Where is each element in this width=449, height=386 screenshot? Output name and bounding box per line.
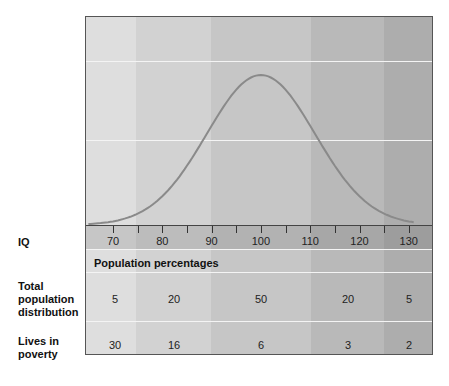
tick-mark bbox=[138, 226, 139, 233]
row-label-line: population bbox=[18, 293, 79, 306]
cell-total-3: 50 bbox=[255, 293, 267, 305]
chart-frame: 708090100110120130 Population percentage… bbox=[85, 16, 433, 355]
cell-poverty-5: 2 bbox=[406, 339, 412, 351]
row-label-poverty: Lives in poverty bbox=[18, 335, 59, 361]
tick-mark bbox=[212, 226, 213, 233]
cell-total-2: 20 bbox=[168, 293, 180, 305]
row-label-line: Total bbox=[18, 280, 79, 293]
row-label-line: poverty bbox=[18, 348, 59, 361]
iq-axis: 708090100110120130 bbox=[86, 225, 432, 250]
tick-label: 100 bbox=[252, 235, 270, 247]
tick-mark bbox=[113, 226, 114, 233]
cell-total-5: 5 bbox=[406, 293, 412, 305]
tick-label: 70 bbox=[107, 235, 119, 247]
tick-mark bbox=[187, 226, 188, 233]
cell-poverty-2: 16 bbox=[168, 339, 180, 351]
tick-mark bbox=[286, 226, 287, 233]
tick-label: 90 bbox=[205, 235, 217, 247]
cell-poverty-1: 30 bbox=[109, 339, 121, 351]
tick-mark bbox=[335, 226, 336, 233]
tick-label: 80 bbox=[156, 235, 168, 247]
divider bbox=[86, 272, 432, 273]
row-label-total-population: Total population distribution bbox=[18, 280, 79, 319]
divider bbox=[86, 249, 432, 250]
tick-label: 110 bbox=[301, 235, 319, 247]
row-label-line: Lives in bbox=[18, 335, 59, 348]
cell-poverty-4: 3 bbox=[345, 339, 351, 351]
tick-label: 130 bbox=[400, 235, 418, 247]
cell-total-4: 20 bbox=[342, 293, 354, 305]
tick-mark bbox=[409, 226, 410, 233]
tick-mark bbox=[360, 226, 361, 233]
tick-label: 120 bbox=[350, 235, 368, 247]
divider bbox=[86, 321, 432, 322]
row-label-line: distribution bbox=[18, 306, 79, 319]
cell-total-1: 5 bbox=[112, 293, 118, 305]
population-percentages-header: Population percentages bbox=[94, 257, 219, 269]
tick-mark bbox=[261, 226, 262, 233]
tick-mark bbox=[162, 226, 163, 233]
cell-poverty-3: 6 bbox=[258, 339, 264, 351]
tick-mark bbox=[236, 226, 237, 233]
bell-curve bbox=[86, 17, 433, 227]
iq-axis-label: IQ bbox=[18, 236, 30, 249]
tick-mark bbox=[384, 226, 385, 233]
tick-mark bbox=[310, 226, 311, 233]
